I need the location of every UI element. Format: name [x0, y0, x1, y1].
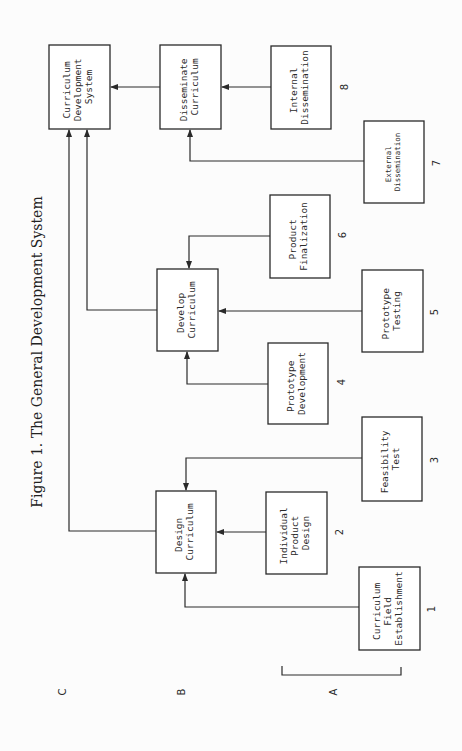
level-label-b: B — [176, 688, 187, 695]
level-label-a: A — [328, 688, 339, 695]
step-number-6: 6 — [337, 232, 348, 238]
box-prototype-development: Prototype Development 4 — [268, 343, 347, 424]
arrow-design-to-cds — [69, 130, 156, 531]
box-product-finalization: Product Finalization 6 — [270, 195, 348, 278]
step-number-1: 1 — [426, 606, 437, 612]
step-number-3: 3 — [429, 457, 440, 463]
figure-title: Figure 1. The General Development System — [29, 196, 45, 507]
svg-text:Disseminate Curriculum: Disseminate Curriculum — [178, 53, 200, 122]
arrow-external-to-disseminate — [190, 130, 364, 161]
arrow-feasibility-to-design — [186, 458, 362, 490]
step-number-7: 7 — [431, 160, 442, 166]
svg-text:Prototype Development: Prototype Development — [285, 352, 307, 415]
box-design-curriculum: Design Curriculum — [156, 491, 216, 573]
arrow-finalization-to-develop — [189, 236, 270, 268]
step-number-5: 5 — [429, 309, 440, 315]
box-disseminate-curriculum: Disseminate Curriculum — [160, 45, 221, 129]
diagram-canvas: Figure 1. The General Development System… — [0, 0, 462, 751]
box-curriculum-field-establishment: Curriculum Field Establishment 1 — [359, 567, 437, 650]
box-curriculum-development-system: Curriculum Development System — [49, 45, 110, 129]
svg-text:Develop Curriculum: Develop Curriculum — [175, 281, 197, 338]
box-feasibility-test: Feasibility Test 3 — [362, 417, 440, 501]
svg-text:Prototype Testing: Prototype Testing — [380, 282, 402, 339]
arrow-field-to-design — [185, 574, 359, 607]
box-individual-product-design: Individual Product Design 2 — [266, 492, 345, 574]
box-external-dissemination: External Dissemination 7 — [364, 121, 442, 203]
step-number-8: 8 — [339, 84, 350, 90]
arrow-develop-to-cds — [87, 130, 157, 310]
arrow-protodev-to-develop — [187, 352, 268, 384]
step-number-4: 4 — [336, 379, 347, 385]
box-develop-curriculum: Develop Curriculum — [157, 269, 218, 351]
box-prototype-testing: Prototype Testing 5 — [362, 270, 440, 352]
connectors — [69, 87, 401, 675]
level-label-c: C — [57, 688, 68, 695]
level-a-bracket — [282, 666, 401, 675]
step-number-2: 2 — [334, 529, 345, 535]
box-internal-dissemination: Internal Dissemination 8 — [271, 46, 350, 129]
